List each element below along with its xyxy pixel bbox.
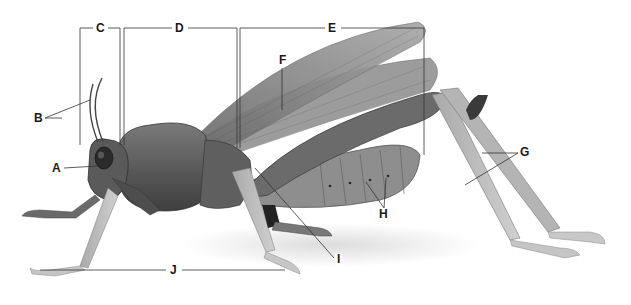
hind-tarsus-near bbox=[510, 240, 580, 258]
front-leg-far bbox=[22, 195, 100, 218]
label-j: J bbox=[168, 264, 179, 276]
label-i: I bbox=[335, 253, 342, 265]
label-f: F bbox=[277, 54, 288, 66]
label-b: B bbox=[32, 112, 45, 124]
antenna-right bbox=[95, 78, 103, 142]
eye-highlight bbox=[98, 152, 104, 159]
label-h: H bbox=[377, 208, 390, 220]
label-c: C bbox=[94, 22, 107, 34]
hind-knee bbox=[466, 95, 488, 120]
label-g: G bbox=[518, 146, 531, 158]
label-d: D bbox=[173, 22, 186, 34]
front-tarsus-near bbox=[30, 266, 85, 276]
grasshopper-illustration bbox=[0, 0, 631, 305]
hind-tarsus-far bbox=[548, 232, 605, 244]
label-e: E bbox=[326, 22, 338, 34]
ground-shadow bbox=[180, 223, 480, 267]
label-a: A bbox=[50, 162, 63, 174]
grasshopper-diagram: A B C D E F G H I J bbox=[0, 0, 631, 305]
